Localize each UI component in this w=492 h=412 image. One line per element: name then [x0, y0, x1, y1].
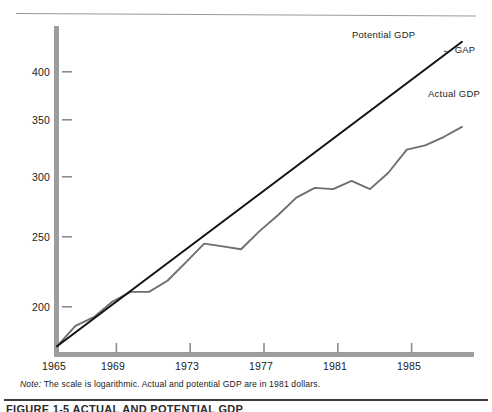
y-tick-label-350: 350 — [16, 114, 50, 126]
x-axis-ticks — [116, 343, 413, 353]
x-tick-label-1977: 1977 — [249, 360, 273, 372]
y-tick-label-300: 300 — [16, 171, 50, 183]
x-tick-label-1965: 1965 — [42, 360, 66, 372]
x-tick-label-1981: 1981 — [323, 360, 347, 372]
y-tick-label-250: 250 — [16, 231, 50, 243]
chart-note: Note: The scale is logarithmic. Actual a… — [20, 379, 320, 389]
chart-plot-area — [0, 0, 492, 412]
y-axis — [54, 26, 59, 352]
note-body: The scale is logarithmic. Actual and pot… — [44, 379, 321, 389]
y-tick-label-400: 400 — [16, 66, 50, 78]
figure-caption: FIGURE 1-5 ACTUAL AND POTENTIAL GDP — [6, 403, 243, 412]
x-tick-label-1973: 1973 — [175, 360, 199, 372]
figure-container: 400 350 300 250 200 1965 1969 1973 1977 … — [0, 0, 492, 412]
y-tick-label-200: 200 — [16, 301, 50, 313]
series-potential-gdp — [57, 42, 462, 347]
series-actual-gdp — [57, 127, 462, 346]
gap-annotation: ← GAP — [442, 44, 475, 55]
x-tick-label-1969: 1969 — [101, 360, 125, 372]
y-axis-ticks — [62, 71, 72, 308]
x-tick-label-1985: 1985 — [397, 360, 421, 372]
actual-gdp-annotation: Actual GDP — [428, 88, 480, 99]
caption-divider-rule — [4, 399, 488, 401]
note-prefix: Note: — [20, 379, 41, 389]
potential-gdp-annotation: Potential GDP — [352, 29, 415, 40]
